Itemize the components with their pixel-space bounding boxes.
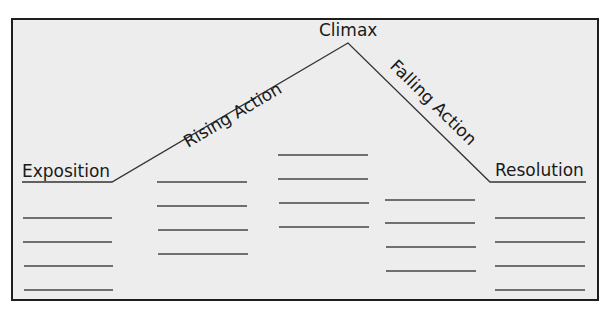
stage-label-falling-action: Falling Action [386,56,481,149]
stage-label-resolution: Resolution [495,160,584,180]
stage-label-exposition: Exposition [22,161,110,181]
climax-blank-lines[interactable] [278,155,369,227]
stage-label-rising-action: Rising Action [180,78,285,151]
resolution-blank-lines[interactable] [495,218,585,290]
plot-diagram: Exposition Rising Action Climax Falling … [0,0,608,314]
stage-label-climax: Climax [319,20,377,40]
exposition-blank-lines[interactable] [23,218,113,290]
falling-action-blank-lines[interactable] [385,200,476,271]
rising-action-blank-lines[interactable] [157,182,248,254]
